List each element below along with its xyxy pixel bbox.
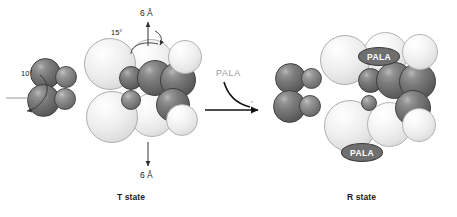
pala-ligand-badge: PALA (341, 143, 383, 162)
subunit-sphere (168, 40, 202, 74)
pala-badge-label: PALA (350, 148, 374, 158)
t-state-caption: T state (117, 192, 145, 202)
left-rotation-label: 10° (21, 69, 32, 78)
subunit-sphere (402, 34, 438, 70)
top-rotation-label: 15° (111, 28, 122, 37)
r-state-caption: R state (347, 192, 376, 202)
subunit-sphere (301, 68, 322, 89)
top-distance-label: 6 Å (140, 8, 153, 18)
subunit-sphere (402, 108, 436, 142)
subunit-sphere (361, 95, 377, 111)
t-state-molecule (0, 0, 215, 217)
subunit-sphere (54, 88, 76, 110)
pala-reaction-label: PALA (216, 68, 241, 78)
pala-ligand-badge: PALA (358, 47, 400, 66)
atcase-allosteric-transition-figure: T state PALA (0, 0, 457, 217)
subunit-sphere (166, 104, 198, 136)
bottom-distance-label: 6 Å (140, 170, 153, 180)
pala-badge-label: PALA (367, 52, 391, 62)
subunit-sphere (299, 95, 321, 117)
r-state-molecule: PALA PALA (262, 0, 457, 217)
r-state-panel: PALA PALA R state (262, 0, 457, 217)
subunit-sphere (55, 66, 77, 88)
t-state-panel: T state (0, 0, 215, 217)
subunit-sphere (121, 90, 141, 110)
